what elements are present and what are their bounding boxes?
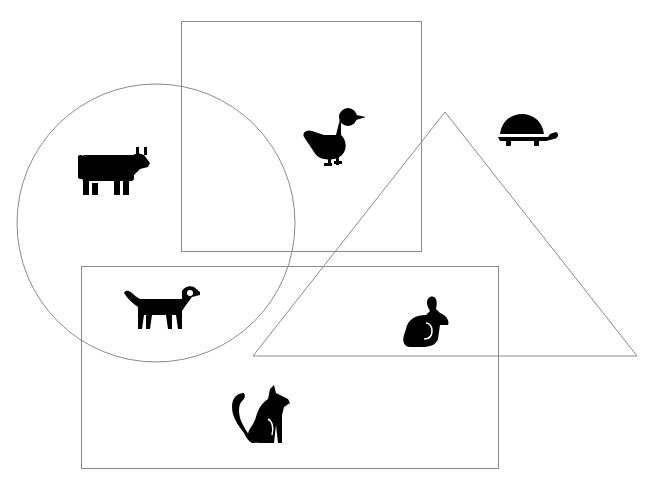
dog-icon [124, 286, 200, 329]
duck-icon [303, 108, 366, 166]
top-rectangle [182, 22, 422, 252]
bottom-rectangle [82, 267, 499, 469]
diagram-canvas [0, 0, 654, 486]
cat-icon [232, 385, 290, 443]
turtle-icon [498, 114, 558, 146]
cow-icon [78, 147, 150, 195]
rabbit-icon [403, 297, 448, 347]
circle [17, 84, 295, 362]
